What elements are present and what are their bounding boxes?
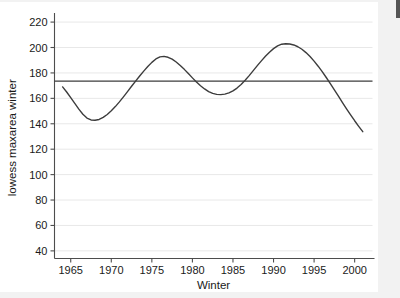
x-tick-label: 1970	[99, 264, 123, 276]
lowess-curve	[63, 44, 363, 132]
y-axis-title: lowess maxarea winter	[6, 79, 18, 196]
tick-marks-group	[51, 22, 355, 262]
y-tick-label: 80	[35, 194, 47, 206]
x-tick-label: 1980	[180, 264, 204, 276]
y-tick-label: 40	[35, 245, 47, 257]
x-tick-label: 1975	[140, 264, 164, 276]
y-tick-label: 100	[29, 169, 47, 181]
y-tick-label: 160	[29, 92, 47, 104]
x-tick-label: 1985	[221, 264, 245, 276]
x-tick-label: 1990	[261, 264, 285, 276]
chart-figure: 4060801001201401601802002201965197019751…	[0, 0, 400, 298]
x-tick-label: 1965	[58, 264, 82, 276]
y-tick-label: 220	[29, 16, 47, 28]
y-tick-label: 180	[29, 67, 47, 79]
y-tick-label: 60	[35, 219, 47, 231]
gridlines-group	[55, 22, 373, 251]
y-tick-label: 140	[29, 118, 47, 130]
data-series-group	[55, 44, 373, 132]
tick-labels-group: 4060801001201401601802002201965197019751…	[29, 16, 367, 275]
x-tick-label: 1995	[302, 264, 326, 276]
y-tick-label: 200	[29, 42, 47, 54]
axes-group	[55, 13, 375, 259]
x-tick-label: 2000	[342, 264, 366, 276]
chart-svg: 4060801001201401601802002201965197019751…	[0, 0, 400, 298]
x-axis-title: Winter	[197, 279, 230, 291]
y-tick-label: 120	[29, 143, 47, 155]
